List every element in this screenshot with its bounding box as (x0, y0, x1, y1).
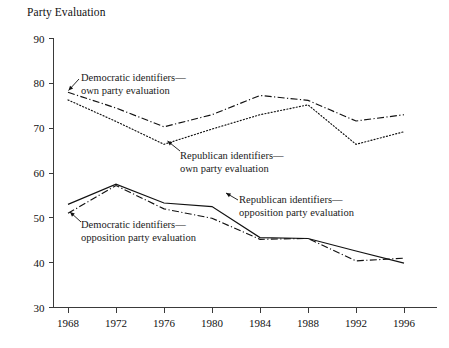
chart-root: Party Evaluation 30405060708090 19681972… (0, 0, 449, 348)
annotation-democratic-own-party: Democratic identifiers— own party evalua… (81, 72, 186, 97)
annotation-line-1: Republican identifiers— (180, 150, 284, 163)
x-tick-label: 1968 (57, 317, 80, 329)
annotation-democratic-opposition-party: Democratic identifiers— opposition party… (81, 219, 196, 244)
y-tick-label: 40 (34, 257, 46, 269)
annotation-line-1: Democratic identifiers— (81, 72, 186, 85)
series-line-1 (68, 100, 404, 144)
series-line-0 (68, 92, 404, 127)
annotation-line-2: opposition party evaluation (81, 232, 196, 245)
y-tick-label: 90 (34, 33, 46, 45)
y-tick-label: 30 (34, 302, 46, 314)
x-tick-label: 1992 (345, 317, 367, 329)
x-tick-label: 1984 (249, 317, 272, 329)
x-tick-label: 1972 (105, 317, 127, 329)
annotation-line-2: opposition party evaluation (239, 207, 354, 220)
x-tick-label: 1976 (153, 317, 176, 329)
y-tick-label: 70 (34, 122, 46, 134)
y-tick-label: 80 (34, 77, 46, 89)
x-tick-label: 1988 (297, 317, 320, 329)
annotation-republican-opposition-party: Republican identifiers— opposition party… (239, 194, 354, 219)
x-tick-label: 1996 (393, 317, 416, 329)
annotation-line-2: own party evaluation (180, 163, 284, 176)
annotation-line-2: own party evaluation (81, 85, 186, 98)
x-tick-label: 1980 (201, 317, 224, 329)
annotation-line-1: Democratic identifiers— (81, 219, 196, 232)
y-axis: 30405060708090 (34, 33, 54, 314)
y-tick-label: 60 (34, 167, 46, 179)
y-tick-label: 50 (34, 212, 46, 224)
annotation-line-1: Republican identifiers— (239, 194, 354, 207)
x-axis: 19681972197619801984198819921996 (54, 308, 438, 329)
annotation-republican-own-party: Republican identifiers— own party evalua… (180, 150, 284, 175)
